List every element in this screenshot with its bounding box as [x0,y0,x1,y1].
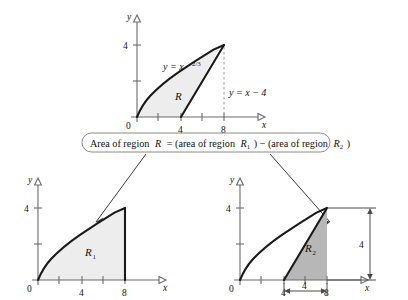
figure-canvas: 0 4 8 4 x y R y = x 2/3 y = x − 4 Area o… [0,0,408,300]
leader-line-to-R2 [270,154,330,222]
svg-text:2/3: 2/3 [192,60,201,67]
leader-lines [96,154,330,225]
horizontal-dimension-label: 4 [302,281,307,291]
bottom-right-chart: 0 4 8 4 x y R 2 4 4 [226,175,376,298]
top-chart-line-equation-label: y = x − 4 [228,87,266,98]
vertical-dimension-label: 4 [359,240,364,250]
bottom-right-ytick-label-4: 4 [226,204,231,214]
bottom-right-horizontal-dimension: 4 [284,281,327,296]
bottom-left-origin-label: 0 [27,284,32,294]
top-chart-y-axis-arrow [134,15,141,22]
bottom-left-y-axis-arrow [35,178,42,185]
svg-text:R: R [304,242,312,254]
bottom-left-ytick-label-4: 4 [24,204,29,214]
svg-text:R: R [84,246,92,258]
bottom-left-xtick-label-4: 4 [79,288,84,298]
formula-box: Area of region R = (area of region R1 ) … [82,133,350,152]
bottom-right-vertical-dimension: 4 [327,208,376,280]
bottom-left-shaded-region-R1 [38,208,125,280]
top-chart: 0 4 8 4 x y R y = x 2/3 y = x − 4 [123,12,267,135]
top-chart-region-label-R: R [174,90,182,102]
top-chart-yaxis-label: y [126,12,132,22]
bottom-right-origin-label: 0 [229,284,234,294]
svg-text:y = x: y = x [162,61,184,72]
bottom-right-y-axis-arrow [237,178,244,185]
bottom-right-yaxis-label: y [229,175,235,185]
svg-text:2: 2 [313,249,317,256]
top-chart-shaded-region-R [137,45,221,117]
figure-root: 0 4 8 4 x y R y = x 2/3 y = x − 4 Area o… [0,0,408,300]
bottom-left-xaxis-label: x [162,283,168,293]
bottom-right-xaxis-label: x [364,283,370,293]
vertical-dimension-arrow-down [367,274,373,280]
bottom-left-xtick-label-8: 8 [122,288,127,298]
top-chart-xaxis-label: x [261,120,267,130]
top-chart-ytick-label-4: 4 [123,41,128,51]
bottom-left-yaxis-label: y [27,175,33,185]
vertical-dimension-arrow-up [367,208,373,214]
bottom-left-chart: 0 4 8 4 x y R 1 [24,175,168,298]
top-chart-origin-label: 0 [126,121,131,131]
svg-text:1: 1 [93,253,96,260]
